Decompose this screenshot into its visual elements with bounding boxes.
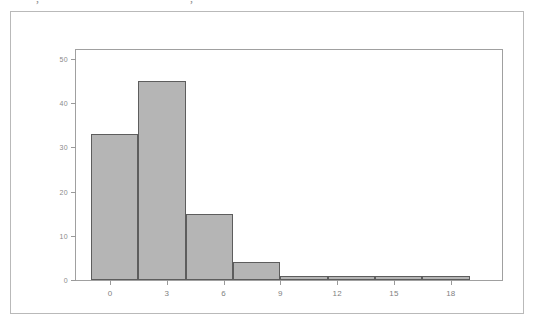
x-axis-tick-label: 0	[108, 289, 113, 298]
x-axis-tick-label: 9	[278, 289, 283, 298]
histogram-bar	[186, 214, 233, 280]
y-axis-tick	[71, 59, 76, 60]
x-axis-tick-label: 6	[221, 289, 226, 298]
x-axis-tick	[337, 280, 338, 285]
figure-frame: 010203040500369121518 Hours to Failure	[10, 11, 524, 314]
x-axis-tick-label: 12	[333, 289, 343, 298]
histogram-bar	[280, 276, 327, 280]
x-axis-tick	[167, 280, 168, 285]
y-axis-tick-label: 0	[64, 277, 68, 284]
histogram-bar	[233, 262, 280, 280]
x-axis-tick-label: 3	[165, 289, 170, 298]
x-axis-tick-label: 15	[389, 289, 399, 298]
x-axis-tick	[394, 280, 395, 285]
x-axis-tick-label: 18	[446, 289, 456, 298]
y-axis-tick	[71, 280, 76, 281]
histogram-bar	[91, 134, 138, 280]
y-axis-tick	[71, 103, 76, 104]
x-axis-tick	[280, 280, 281, 285]
y-axis-tick	[71, 192, 76, 193]
x-axis-tick	[224, 280, 225, 285]
y-axis-tick	[71, 147, 76, 148]
plot-surface: 010203040500369121518	[76, 50, 502, 280]
y-axis-tick-label: 30	[60, 144, 68, 151]
y-axis-tick-label: 40	[60, 100, 68, 107]
y-axis-tick-label: 20	[60, 188, 68, 195]
y-axis-tick	[71, 236, 76, 237]
artifact-glyph-center: ,	[190, 0, 193, 6]
artifact-glyph-left: ,	[36, 0, 39, 6]
histogram-bar	[138, 81, 185, 280]
histogram-bar	[375, 276, 422, 280]
histogram-bar	[422, 276, 469, 280]
x-axis-tick	[110, 280, 111, 285]
histogram-plot-area: 010203040500369121518	[75, 49, 503, 281]
histogram-bar	[328, 276, 375, 280]
y-axis-tick-label: 50	[60, 55, 68, 62]
y-axis-tick-label: 10	[60, 232, 68, 239]
clipped-text-artifact: , ,	[0, 0, 535, 8]
x-axis-tick	[451, 280, 452, 285]
